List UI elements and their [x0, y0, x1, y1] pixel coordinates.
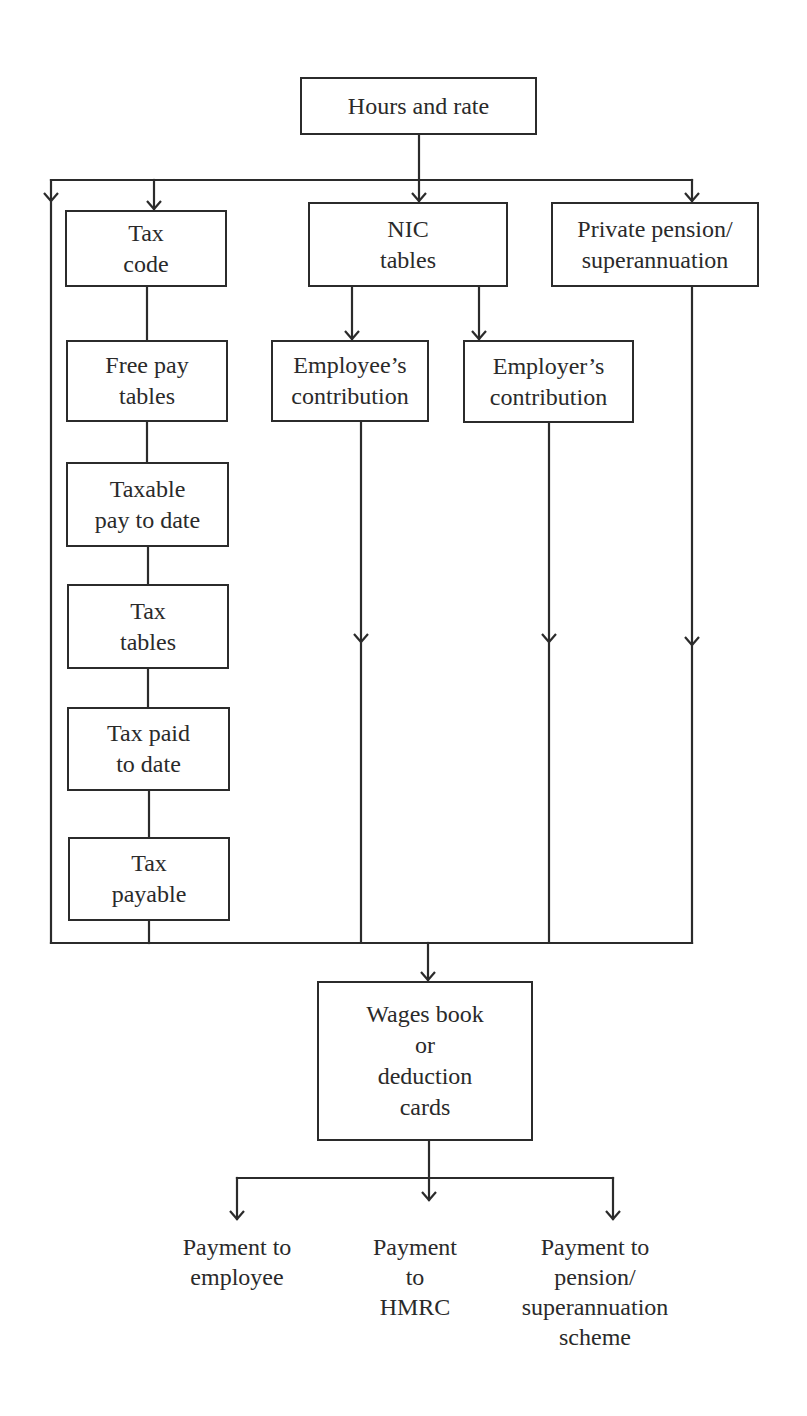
node-label: pay to date — [95, 505, 200, 536]
output-label: HMRC — [345, 1292, 485, 1322]
node-label: tables — [119, 381, 175, 412]
node-nic-tables: NIC tables — [308, 202, 508, 287]
node-label: tables — [380, 245, 436, 276]
node-label: Tax — [130, 596, 166, 627]
node-label: tables — [120, 627, 176, 658]
node-label: Tax — [128, 218, 164, 249]
node-label: or — [415, 1030, 435, 1061]
node-label: superannuation — [582, 245, 729, 276]
node-label: Employer’s — [493, 351, 605, 382]
output-label: scheme — [505, 1322, 685, 1352]
node-label: contribution — [291, 381, 408, 412]
output-label: to — [345, 1262, 485, 1292]
node-label: cards — [400, 1092, 451, 1123]
node-label: payable — [112, 879, 187, 910]
node-employee-contribution: Employee’s contribution — [271, 340, 429, 422]
output-label: superannuation — [505, 1292, 685, 1322]
node-hours-and-rate: Hours and rate — [300, 77, 537, 135]
node-label: Tax — [131, 848, 167, 879]
node-label: Hours and rate — [348, 91, 489, 122]
node-tax-code: Tax code — [65, 210, 227, 287]
output-payment-to-employee: Payment to employee — [157, 1232, 317, 1292]
output-payment-to-pension-scheme: Payment to pension/ superannuation schem… — [505, 1232, 685, 1352]
node-wages-book: Wages book or deduction cards — [317, 981, 533, 1141]
node-employer-contribution: Employer’s contribution — [463, 340, 634, 423]
node-label: Employee’s — [293, 350, 406, 381]
output-label: Payment — [345, 1232, 485, 1262]
node-tax-tables: Tax tables — [67, 584, 229, 669]
node-label: code — [123, 249, 168, 280]
node-label: deduction — [378, 1061, 473, 1092]
node-label: to date — [116, 749, 181, 780]
node-private-pension: Private pension/ superannuation — [551, 202, 759, 287]
node-tax-paid-to-date: Tax paid to date — [67, 707, 230, 791]
payroll-flowchart: Hours and rate Tax code Free pay tables … — [0, 0, 807, 1416]
node-free-pay-tables: Free pay tables — [66, 340, 228, 422]
node-label: contribution — [490, 382, 607, 413]
output-payment-to-hmrc: Payment to HMRC — [345, 1232, 485, 1322]
node-label: Private pension/ — [577, 214, 732, 245]
node-label: NIC — [387, 214, 428, 245]
node-taxable-pay-to-date: Taxable pay to date — [66, 462, 229, 547]
node-label: Taxable — [110, 474, 186, 505]
node-label: Free pay — [105, 350, 188, 381]
node-tax-payable: Tax payable — [68, 837, 230, 921]
node-label: Wages book — [366, 999, 483, 1030]
output-label: Payment to — [505, 1232, 685, 1262]
node-label: Tax paid — [107, 718, 190, 749]
output-label: employee — [157, 1262, 317, 1292]
output-label: pension/ — [505, 1262, 685, 1292]
output-label: Payment to — [157, 1232, 317, 1262]
